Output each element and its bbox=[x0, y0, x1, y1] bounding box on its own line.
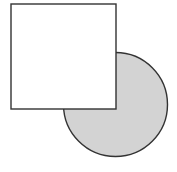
geometry-figure bbox=[0, 0, 177, 172]
figure-canvas bbox=[0, 0, 177, 172]
white-square-shape bbox=[11, 4, 116, 109]
